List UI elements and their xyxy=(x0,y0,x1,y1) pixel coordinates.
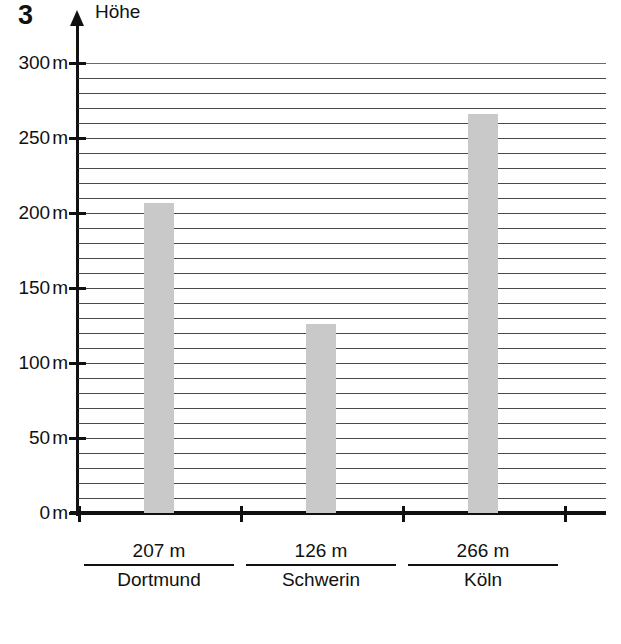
y-tick-value: 250 xyxy=(18,127,50,148)
x-axis-tick xyxy=(402,506,405,522)
y-axis-tick xyxy=(69,287,86,290)
gridline xyxy=(78,168,606,169)
y-axis-tick xyxy=(69,62,86,65)
y-tick-unit: m xyxy=(52,202,68,223)
gridline xyxy=(78,108,606,109)
y-tick-value: 100 xyxy=(18,352,50,373)
category-caption: 126 mSchwerin xyxy=(246,540,396,592)
bar xyxy=(306,324,336,513)
y-axis-tick xyxy=(69,437,86,440)
gridline xyxy=(78,153,606,154)
bar xyxy=(468,114,498,513)
y-tick-unit: m xyxy=(52,127,68,148)
gridline xyxy=(78,183,606,184)
gridline xyxy=(78,78,606,79)
gridline xyxy=(78,198,606,199)
y-tick-value: 200 xyxy=(18,202,50,223)
y-tick-unit: m xyxy=(52,277,68,298)
category-name-label: Dortmund xyxy=(84,566,234,591)
gridline xyxy=(78,63,606,64)
y-tick-unit: m xyxy=(52,352,68,373)
gridline xyxy=(78,138,606,139)
gridline xyxy=(78,123,606,124)
x-axis-tick xyxy=(564,506,567,522)
bar-value-label: 266 m xyxy=(408,540,558,566)
gridline xyxy=(78,93,606,94)
y-axis-title: Höhe xyxy=(95,2,140,21)
y-tick-value: 150 xyxy=(18,277,50,298)
y-tick-value: 50 xyxy=(29,427,50,448)
category-name-label: Schwerin xyxy=(246,566,396,591)
bar-value-label: 126 m xyxy=(246,540,396,566)
y-tick-value: 0 xyxy=(40,502,51,523)
y-axis-tick-label: 150m xyxy=(0,278,68,297)
y-axis-tick xyxy=(69,137,86,140)
y-axis-tick xyxy=(69,362,86,365)
bar-value-label: 207 m xyxy=(84,540,234,566)
y-tick-unit: m xyxy=(52,502,68,523)
y-tick-unit: m xyxy=(52,52,68,73)
y-axis-tick-label: 200m xyxy=(0,203,68,222)
y-axis-tick-label: 100m xyxy=(0,353,68,372)
y-tick-value: 300 xyxy=(18,52,50,73)
y-axis-tick-label: 250m xyxy=(0,128,68,147)
exercise-number: 3 xyxy=(18,2,33,29)
y-axis-tick-label: 300m xyxy=(0,53,68,72)
category-caption: 207 mDortmund xyxy=(84,540,234,592)
x-axis-tick xyxy=(78,506,81,522)
y-axis-tick-label: 50m xyxy=(0,428,68,447)
bar xyxy=(144,203,174,514)
y-axis-tick xyxy=(69,212,86,215)
y-tick-unit: m xyxy=(52,427,68,448)
category-name-label: Köln xyxy=(408,566,558,591)
bar-chart-figure: 3 Höhe 300m250m200m150m100m50m0m 207 mDo… xyxy=(0,0,621,644)
x-axis-tick xyxy=(240,506,243,522)
y-axis-tick-label: 0m xyxy=(0,503,68,522)
category-caption: 266 mKöln xyxy=(408,540,558,592)
